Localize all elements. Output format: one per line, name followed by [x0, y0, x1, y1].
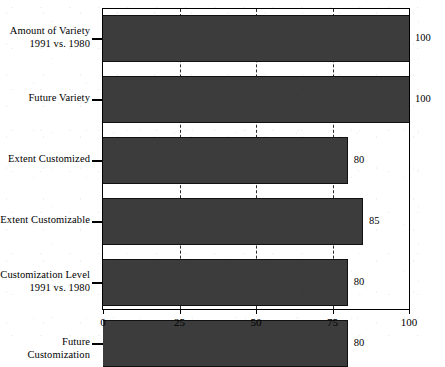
bar-value-label: 100: [415, 32, 431, 44]
x-axis-tick: [103, 310, 104, 314]
bar-value-label: 100: [415, 93, 431, 105]
category-tick-mark: [92, 38, 103, 40]
bar-value-label: 80: [354, 276, 365, 288]
bar[interactable]: [103, 259, 348, 306]
bar-row: [103, 15, 409, 62]
x-axis-tick: [333, 310, 334, 314]
category-tick-mark: [92, 99, 103, 101]
bar-value-label: 85: [369, 215, 380, 227]
x-axis-tick: [256, 310, 257, 314]
category-label: Customization Level 1991 vs. 1980: [0, 269, 90, 294]
x-axis-tick-label: 75: [327, 316, 338, 329]
bar-row: [103, 198, 409, 245]
category-tick-mark: [92, 282, 103, 284]
x-axis-tick-label: 0: [100, 316, 106, 329]
x-axis-tick-label: 25: [174, 316, 185, 329]
bar[interactable]: [103, 198, 363, 245]
bar-value-label: 80: [354, 154, 365, 166]
category-label: Extent Customized: [8, 153, 90, 166]
category-tick-mark: [92, 160, 103, 162]
category-label: Future Customization: [0, 336, 90, 361]
bar[interactable]: [103, 15, 409, 62]
x-axis-tick-label: 50: [251, 316, 262, 329]
category-label: Amount of Variety 1991 vs. 1980: [10, 25, 90, 50]
x-axis-tick: [180, 310, 181, 314]
bar-row: [103, 76, 409, 123]
bar-value-label: 80: [354, 337, 365, 349]
category-tick-mark: [92, 221, 103, 223]
x-axis-tick: [409, 310, 410, 314]
category-label: Future Variety: [28, 92, 90, 105]
category-label: Extent Customizable: [0, 214, 90, 227]
bar[interactable]: [103, 320, 348, 367]
x-axis-tick-label: 100: [401, 316, 418, 329]
bar[interactable]: [103, 137, 348, 184]
category-tick-mark: [92, 343, 103, 345]
bar[interactable]: [103, 76, 409, 123]
